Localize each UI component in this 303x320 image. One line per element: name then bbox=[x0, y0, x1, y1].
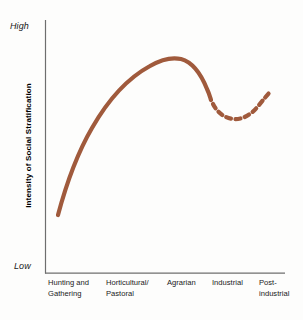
social-stratification-chart: High Low Intensity of Social Stratificat… bbox=[0, 0, 303, 320]
y-axis-low-label: Low bbox=[14, 261, 31, 271]
x-tick-label-line1: Post- bbox=[259, 278, 277, 287]
y-axis-high-label: High bbox=[10, 21, 29, 31]
x-tick-label-line2: industrial bbox=[259, 289, 289, 300]
x-tick-label-line2: Pastoral bbox=[106, 289, 149, 300]
x-tick-label-horticultural-pastoral: Horticultural/ Pastoral bbox=[106, 278, 149, 299]
x-tick-label-post-industrial: Post- industrial bbox=[259, 278, 289, 299]
x-tick-label-line1: Hunting and bbox=[48, 278, 89, 287]
x-axis-label-group: Hunting and Gathering Horticultural/ Pas… bbox=[45, 278, 295, 312]
chart-plot-area bbox=[0, 0, 303, 320]
x-tick-label-line1: Industrial bbox=[212, 278, 243, 287]
x-tick-label-line1: Horticultural/ bbox=[106, 278, 149, 287]
x-tick-label-line2: Gathering bbox=[48, 289, 89, 300]
stratification-curve-dashed bbox=[213, 92, 270, 119]
x-tick-label-industrial: Industrial bbox=[212, 278, 243, 289]
stratification-curve-solid bbox=[58, 58, 211, 215]
x-tick-label-hunting-and-gathering: Hunting and Gathering bbox=[48, 278, 89, 299]
x-tick-label-line1: Agrarian bbox=[167, 278, 196, 287]
y-axis-title: Intensity of Social Stratification bbox=[24, 56, 33, 236]
x-tick-label-agrarian: Agrarian bbox=[167, 278, 196, 289]
